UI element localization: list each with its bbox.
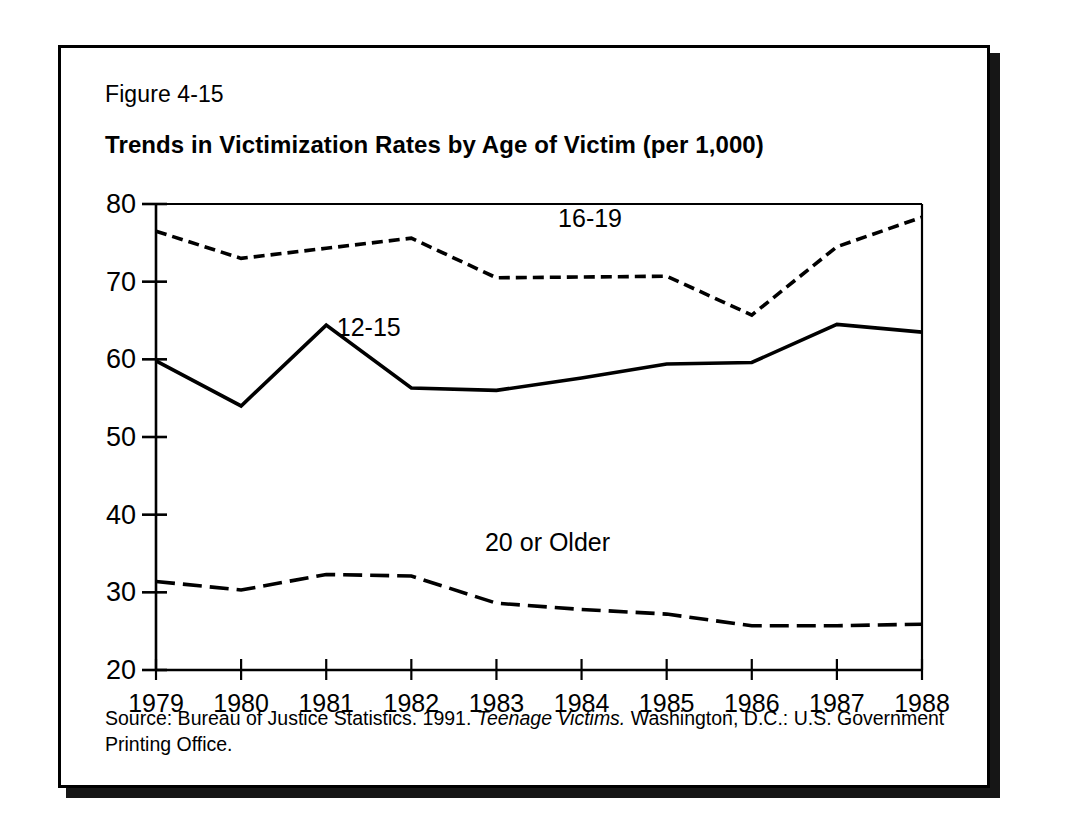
line-chart: 2030405060708019791980198119821983198419…	[61, 48, 993, 791]
y-tick-label: 50	[106, 422, 136, 452]
y-tick-label: 60	[106, 344, 136, 374]
source-prefix: Source: Bureau of Justice Statistics. 19…	[105, 707, 477, 729]
y-tick-label: 40	[106, 500, 136, 530]
series-line-12-15	[156, 324, 922, 406]
series-line-16-19	[156, 217, 922, 315]
source-note: Source: Bureau of Justice Statistics. 19…	[105, 706, 957, 758]
y-tick-label: 70	[106, 267, 136, 297]
y-tick-label: 30	[106, 577, 136, 607]
series-label-16-19: 16-19	[558, 204, 622, 232]
series-label-20-or-older: 20 or Older	[485, 528, 610, 556]
y-tick-label: 80	[106, 189, 136, 219]
y-tick-label: 20	[106, 655, 136, 685]
chart-plot-area: 2030405060708019791980198119821983198419…	[61, 48, 993, 791]
source-title-italic: Teenage Victims.	[477, 707, 626, 729]
series-line-20-or-older	[156, 574, 922, 625]
figure-frame: Figure 4-15 Trends in Victimization Rate…	[58, 45, 990, 788]
series-label-12-15: 12-15	[337, 313, 401, 341]
figure-page: Figure 4-15 Trends in Victimization Rate…	[0, 0, 1067, 835]
